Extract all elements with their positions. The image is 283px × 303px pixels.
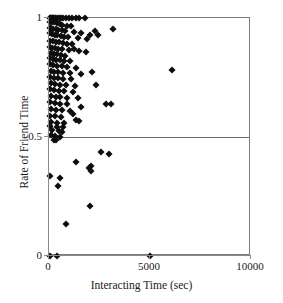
data-point — [98, 149, 105, 156]
data-point — [77, 104, 84, 111]
y-tick-label: 0.5 — [28, 130, 42, 142]
data-point — [58, 107, 65, 114]
data-point — [107, 100, 114, 107]
y-tick-label: 0 — [37, 249, 43, 261]
data-point — [77, 70, 84, 77]
x-tick-label: 10000 — [236, 260, 264, 272]
x-tick-mark — [48, 255, 49, 259]
data-point — [73, 158, 80, 165]
y-tick-mark — [44, 17, 48, 18]
data-point — [146, 252, 153, 259]
data-point — [83, 48, 90, 55]
data-point — [86, 202, 93, 209]
x-tick-label: 5000 — [138, 260, 160, 272]
data-point — [92, 82, 99, 89]
data-point — [88, 69, 95, 76]
data-point — [54, 252, 61, 259]
data-point — [106, 151, 113, 158]
data-point — [69, 88, 76, 95]
x-axis-title: Interacting Time (sec) — [0, 279, 283, 291]
y-axis-line — [48, 17, 49, 256]
data-point — [74, 35, 81, 42]
x-tick-label: 0 — [45, 260, 51, 272]
data-point — [169, 66, 176, 73]
data-point — [63, 220, 70, 227]
data-point — [73, 64, 80, 71]
data-point — [65, 33, 72, 40]
scatter-plot-figure: 00.51 0500010000 Interacting Time (sec) … — [0, 0, 283, 303]
data-point — [74, 95, 81, 102]
data-point — [110, 25, 117, 32]
plot-area — [48, 17, 250, 255]
y-tick-mark — [44, 136, 48, 137]
x-tick-mark — [149, 255, 150, 259]
data-point — [81, 14, 88, 21]
reference-line-half — [49, 137, 249, 138]
data-point — [75, 117, 82, 124]
data-point — [55, 182, 62, 189]
y-tick-label: 1 — [37, 11, 43, 23]
y-axis-title: Rate of Friend Time — [18, 62, 30, 222]
x-tick-mark — [250, 255, 251, 259]
data-point — [57, 174, 64, 181]
